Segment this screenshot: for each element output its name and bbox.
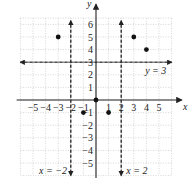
x-tick-label: 5 (157, 102, 162, 113)
data-point (94, 98, 99, 103)
y-tick-label: 6 (88, 19, 93, 30)
data-point (144, 47, 149, 52)
y-tick-label: −3 (82, 132, 93, 143)
x-axis-label: x (182, 101, 188, 112)
y-tick-label: −2 (82, 120, 93, 131)
x-tick-label: −5 (28, 102, 39, 113)
coordinate-plane-chart: xy−5−4−3−2−112345654321−1−2−3−4−5y = 3x … (0, 0, 196, 185)
x-tick-label: −3 (53, 102, 64, 113)
x-tick-label: 4 (144, 102, 149, 113)
label-x-equals-2: x = 2 (125, 165, 147, 176)
y-tick-label: −5 (82, 158, 93, 169)
y-tick-label: −4 (82, 145, 93, 156)
label-x-equals-minus-2: x = −2 (38, 165, 67, 176)
x-tick-label: −4 (40, 102, 51, 113)
y-tick-label: 1 (88, 82, 93, 93)
data-point (131, 35, 136, 40)
y-tick-label: 5 (88, 32, 93, 43)
data-point (56, 35, 61, 40)
plot-area: xy−5−4−3−2−112345654321−1−2−3−4−5y = 3x … (0, 0, 196, 185)
label-y-equals-3: y = 3 (144, 65, 166, 76)
y-tick-label: 2 (88, 69, 93, 80)
data-point (81, 110, 86, 115)
y-tick-label: 4 (88, 44, 93, 55)
y-axis-label: y (86, 0, 92, 9)
data-point (106, 110, 111, 115)
x-tick-label: 3 (131, 102, 136, 113)
